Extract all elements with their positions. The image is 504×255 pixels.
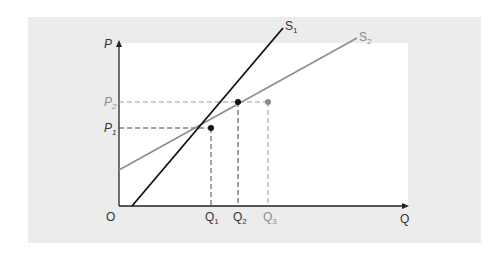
equilibrium-point-2 [235, 99, 241, 105]
q3-label: Q3 [263, 210, 277, 226]
s2-label: S2 [359, 30, 371, 46]
p1-label: P1 [104, 121, 116, 137]
equilibrium-point-1 [208, 125, 214, 131]
y-axis-label: P [104, 37, 112, 51]
q2-label: Q2 [233, 210, 247, 226]
origin-label: O [106, 210, 115, 224]
s1-label: S1 [285, 19, 297, 35]
x-axis-label: Q [400, 212, 409, 226]
q1-label: Q1 [205, 210, 219, 226]
plot-area [119, 43, 408, 206]
equilibrium-point-3 [265, 99, 271, 105]
p2-label: P2 [104, 95, 116, 111]
supply-diagram [0, 0, 504, 255]
